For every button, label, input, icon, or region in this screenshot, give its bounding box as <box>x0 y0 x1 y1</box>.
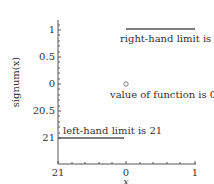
y-tick-label: 1 <box>31 25 55 35</box>
y-tick-label: 0.5 <box>31 52 55 62</box>
y-tick-label: 0 <box>31 79 55 89</box>
x-axis-label: x <box>111 177 141 184</box>
x-tick-label: 1 <box>180 168 210 178</box>
function-value-point <box>124 82 128 86</box>
y-axis-label: signum(x) <box>11 52 21 112</box>
left-limit-annotation: left-hand limit is 21 <box>63 126 162 136</box>
right-limit-annotation: right-hand limit is 1 <box>120 34 214 44</box>
x-tick-label: 21 <box>43 168 73 178</box>
y-tick-label: 21 <box>31 133 55 143</box>
y-tick-label: 20.5 <box>31 106 55 116</box>
function-value-annotation: value of function is 0 <box>110 90 214 100</box>
